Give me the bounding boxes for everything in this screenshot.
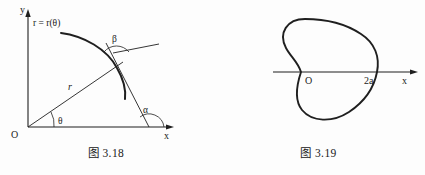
figure-page: y x O r = r(θ) r θ α β 图 3.18 O 2a x 图 3…	[0, 0, 425, 175]
figure-3-18-drawing: y x O r = r(θ) r θ α β	[0, 0, 212, 140]
origin-label: O	[11, 129, 18, 140]
cardioid-curve	[283, 19, 378, 120]
angle-theta-arc	[51, 112, 54, 127]
figure-3-18-caption: 图 3.18	[0, 144, 212, 160]
y-axis-label: y	[20, 4, 25, 15]
figure-3-19: O 2a x 图 3.19	[212, 0, 425, 175]
radius-vector	[28, 62, 123, 127]
figure-3-19-drawing: O 2a x	[212, 0, 425, 140]
x-axis-label: x	[164, 130, 169, 140]
x-axis-label: x	[402, 75, 407, 86]
angle-alpha-label: α	[143, 105, 148, 115]
rightmost-point-label: 2a	[364, 75, 374, 86]
origin-label: O	[305, 75, 312, 86]
x-axis-arrowhead	[410, 69, 418, 74]
radius-label: r	[68, 81, 72, 92]
curve-equation-label: r = r(θ)	[33, 18, 60, 29]
y-axis-arrowhead	[25, 9, 30, 17]
figure-3-19-caption: 图 3.19	[212, 144, 425, 160]
x-axis-arrowhead	[166, 124, 174, 129]
angle-theta-label: θ	[58, 116, 63, 126]
figure-3-18: y x O r = r(θ) r θ α β 图 3.18	[0, 0, 212, 175]
tangent-line-upper	[113, 44, 159, 53]
angle-beta-label: β	[112, 34, 117, 44]
